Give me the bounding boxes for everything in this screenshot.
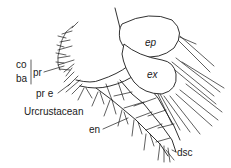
leader-en: [103, 118, 128, 129]
leader-pre: [58, 84, 70, 93]
figure-caption: Urcrustacean: [24, 106, 83, 117]
label-ba: ba: [16, 73, 28, 84]
urcrustacean-limb-diagram: co ba pr pr e ep ex Urcrustacean en dsc: [0, 0, 231, 168]
endite-spines: [78, 88, 154, 150]
limb-outline-inner: [80, 74, 136, 88]
label-pre: pr e: [36, 88, 54, 99]
label-ep: ep: [145, 37, 157, 48]
endites: [64, 64, 82, 94]
label-pr: pr: [33, 67, 43, 78]
protopod-spines: [56, 22, 78, 70]
label-dsc: dsc: [177, 147, 193, 158]
label-en: en: [89, 124, 100, 135]
label-ex: ex: [147, 69, 159, 80]
label-co: co: [16, 59, 27, 70]
